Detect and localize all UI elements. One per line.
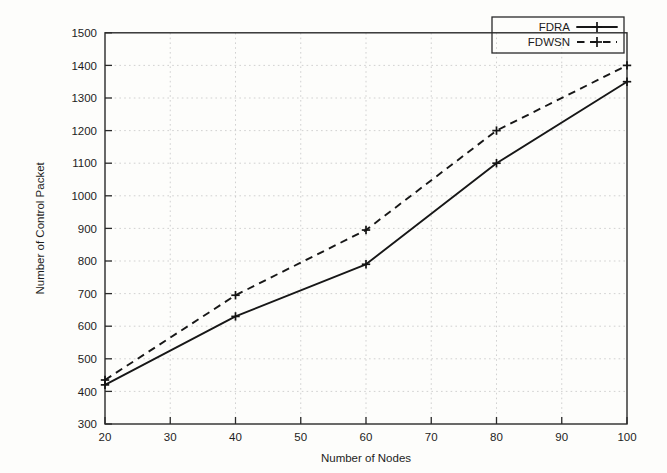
y-tick-label: 800	[78, 255, 97, 267]
x-tick-label: 40	[229, 431, 242, 443]
x-axis-title: Number of Nodes	[321, 452, 411, 464]
y-tick-marks	[105, 33, 112, 424]
y-tick-label: 1400	[71, 60, 97, 72]
y-tick-label: 900	[78, 223, 97, 235]
chart-page: 300 400 500 600 700 800 900 1000 1100 12…	[0, 0, 667, 473]
data-point-marker	[231, 312, 239, 320]
data-point-marker	[231, 291, 239, 299]
series-line	[105, 65, 627, 380]
data-point-marker	[623, 61, 631, 69]
y-tick-label: 1000	[71, 190, 97, 202]
line-chart: 300 400 500 600 700 800 900 1000 1100 12…	[0, 0, 667, 473]
y-tick-label: 1200	[71, 125, 97, 137]
legend-swatch-fdra	[577, 22, 617, 32]
x-tick-label: 60	[360, 431, 373, 443]
y-tick-label: 300	[78, 418, 97, 430]
legend-label-fdwsn: FDWSN	[528, 36, 570, 48]
y-tick-label: 1300	[71, 92, 97, 104]
y-tick-label: 600	[78, 320, 97, 332]
y-tick-label: 1100	[72, 157, 97, 169]
x-tick-label: 90	[555, 431, 568, 443]
y-tick-label: 700	[78, 288, 97, 300]
x-tick-marks	[105, 417, 627, 424]
x-tick-label: 50	[294, 431, 307, 443]
y-tick-labels: 300 400 500 600 700 800 900 1000 1100 12…	[71, 27, 97, 430]
x-tick-label: 100	[617, 431, 636, 443]
legend-swatch-fdwsn	[577, 37, 617, 47]
x-tick-label: 70	[425, 431, 438, 443]
x-tick-label: 80	[490, 431, 503, 443]
y-axis-title: Number of Control Packet	[34, 161, 46, 294]
y-tick-label: 1500	[71, 27, 97, 39]
x-tick-label: 20	[99, 431, 112, 443]
legend: FDRA FDWSN	[492, 17, 624, 53]
y-tick-label: 400	[78, 386, 97, 398]
x-tick-label: 30	[164, 431, 177, 443]
x-tick-labels: 20 30 40 50 60 70 80 90 100	[99, 431, 637, 443]
y-tick-label: 500	[78, 353, 97, 365]
legend-label-fdra: FDRA	[539, 21, 571, 33]
